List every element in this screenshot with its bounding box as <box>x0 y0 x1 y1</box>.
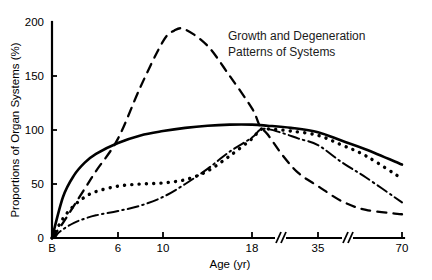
chart-title-line-1: Growth and Degeneration <box>228 29 365 43</box>
curve-dashdot <box>52 129 402 238</box>
x-axis-title: Age (yr) <box>210 258 251 270</box>
y-tick-label-100: 100 <box>25 124 44 136</box>
x-tick-label-35: 35 <box>312 242 325 254</box>
y-tick-label-50: 50 <box>31 178 44 190</box>
chart-figure: Proportions of Organ Systems (%) 200 150… <box>0 0 432 280</box>
curve-solid <box>52 124 402 238</box>
y-tick-label-0: 0 <box>38 232 44 244</box>
x-axis-break-1 <box>275 232 286 243</box>
y-axis-title: Proportions of Organ Systems (%) <box>9 42 21 217</box>
growth-degeneration-chart: Proportions of Organ Systems (%) 200 150… <box>0 0 432 280</box>
x-tick-label-B: B <box>48 242 56 254</box>
x-tick-label-18: 18 <box>246 242 259 254</box>
y-tick-label-200: 200 <box>25 16 44 28</box>
curve-dashed <box>52 28 402 238</box>
x-tick-label-70: 70 <box>396 242 409 254</box>
x-tick-label-6: 6 <box>115 242 121 254</box>
chart-title-line-2: Patterns of Systems <box>228 45 335 59</box>
y-tick-label-150: 150 <box>25 70 44 82</box>
curve-dotted <box>52 129 402 238</box>
x-axis-break-2 <box>342 232 353 243</box>
x-tick-label-10: 10 <box>157 242 170 254</box>
